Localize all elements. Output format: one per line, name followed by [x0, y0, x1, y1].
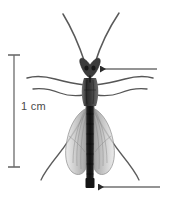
scale-bar-label: 1 cm [21, 100, 46, 113]
eye-left-icon [84, 65, 88, 70]
antenna-right-icon [95, 13, 119, 63]
antennae-group [63, 13, 119, 63]
wing-left-icon [66, 108, 87, 175]
scale-bar [8, 55, 20, 167]
insect-figure: 1 cm [0, 0, 176, 203]
leg-left-fore-icon [27, 77, 85, 85]
eye-right-icon [91, 65, 95, 70]
head-icon [80, 58, 101, 78]
leg-right-mid-icon [96, 89, 147, 96]
abdomen-tip-icon [86, 178, 95, 188]
leg-right-fore-icon [95, 77, 153, 85]
antenna-left-icon [63, 14, 85, 63]
abdomen-icon [86, 104, 95, 182]
leg-left-mid-icon [33, 89, 84, 96]
wing-right-icon [93, 108, 114, 175]
